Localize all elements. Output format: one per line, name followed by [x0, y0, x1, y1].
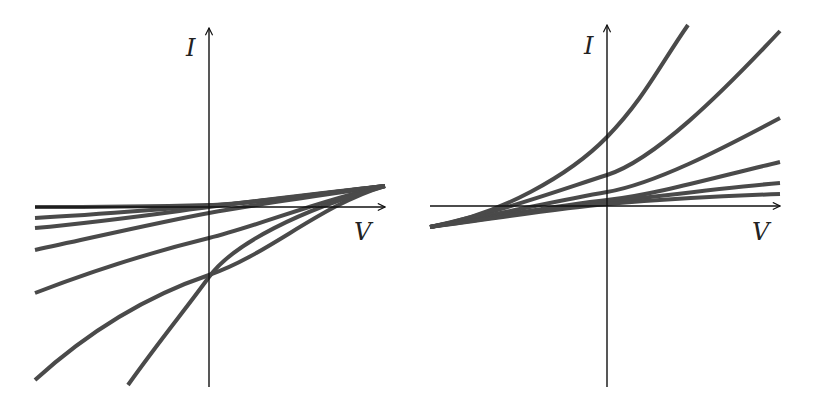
- right-y-axis-label: I: [583, 32, 594, 60]
- right-curve-3: [430, 118, 780, 227]
- right-curves: [430, 25, 780, 227]
- right-x-axis-label: V: [752, 218, 772, 246]
- left-panel: I V: [35, 28, 385, 387]
- left-y-axis-label: I: [185, 34, 196, 62]
- iv-curves-diagram: I V I V: [0, 0, 813, 416]
- left-x-axis-label: V: [354, 218, 374, 246]
- left-curves: [35, 186, 385, 385]
- left-curve-4: [35, 186, 385, 250]
- left-curve-7: [128, 186, 385, 385]
- right-panel: I V: [430, 25, 780, 387]
